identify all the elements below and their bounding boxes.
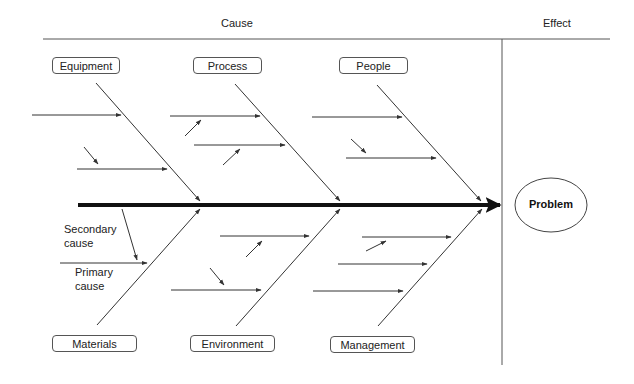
problem-label: Problem	[515, 198, 587, 210]
secondary-cause-arrow	[223, 149, 240, 165]
primary-cause-line2: cause	[75, 279, 113, 293]
primary-cause-line1: Primary	[75, 265, 113, 279]
secondary-cause-arrow	[185, 120, 201, 136]
bone-management	[378, 209, 482, 326]
effect-header: Effect	[543, 17, 571, 29]
category-equipment: Equipment	[52, 57, 120, 74]
secondary-cause-line1: Secondary	[64, 222, 117, 236]
bone-people	[377, 85, 481, 201]
secondary-cause-arrow	[210, 268, 224, 285]
secondary-cause-arrow	[122, 209, 137, 260]
category-process: Process	[193, 57, 262, 74]
category-people: People	[339, 57, 408, 74]
category-environment: Environment	[190, 335, 275, 352]
secondary-cause-arrow	[351, 139, 366, 153]
bone-equipment	[96, 83, 200, 201]
secondary-cause-annotation: Secondary cause	[64, 222, 117, 250]
bone-process	[235, 84, 340, 201]
category-materials: Materials	[52, 335, 137, 352]
secondary-cause-line2: cause	[64, 236, 117, 250]
cause-header: Cause	[221, 17, 253, 29]
secondary-cause-arrow	[366, 241, 386, 251]
bone-environment	[236, 209, 340, 326]
secondary-cause-arrow	[246, 241, 262, 257]
fishbone-diagram: Cause Effect Equipment Process People Ma…	[0, 0, 634, 384]
primary-cause-annotation: Primary cause	[75, 265, 113, 293]
category-management: Management	[330, 336, 415, 353]
secondary-cause-arrow	[84, 147, 98, 164]
